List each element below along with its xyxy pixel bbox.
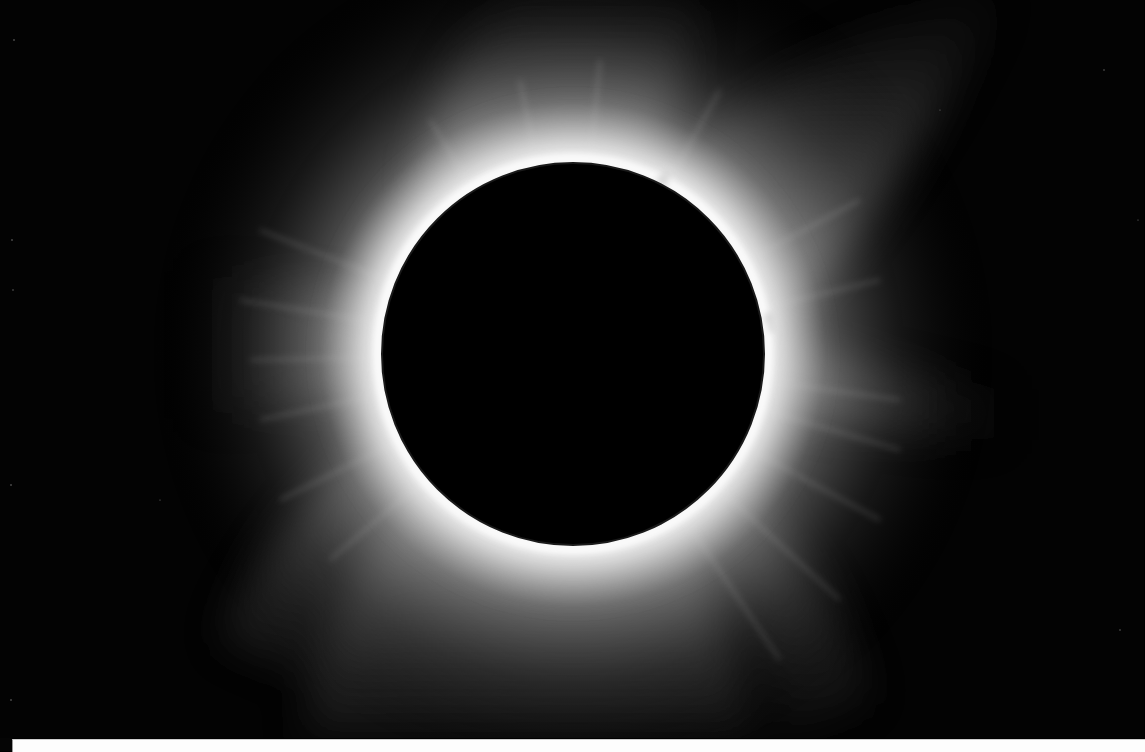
eclipse-graphic: [0, 0, 1144, 738]
eclipse-photo: [0, 0, 1144, 738]
bottom-left-corner: [0, 738, 12, 751]
moon-disc: [382, 163, 764, 545]
prominence-right: [764, 312, 776, 324]
bottom-white-strip: [12, 739, 1145, 752]
